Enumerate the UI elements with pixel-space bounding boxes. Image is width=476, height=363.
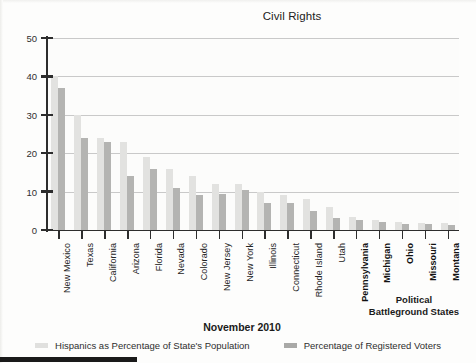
x-tick — [264, 231, 265, 239]
x-axis-label: Missouri — [428, 243, 438, 281]
bar-population[interactable] — [349, 217, 356, 230]
x-tick — [150, 231, 151, 239]
scan-artifact-bar — [0, 357, 137, 362]
y-tick-0 — [41, 229, 53, 232]
y-tick-label-0: 0 — [32, 225, 37, 236]
bar-voters[interactable] — [173, 188, 180, 230]
bar-voters[interactable] — [333, 218, 340, 230]
bar-group[interactable] — [367, 38, 390, 230]
x-tick — [173, 231, 174, 239]
bar-group[interactable] — [390, 38, 413, 230]
x-axis-label: New York — [245, 243, 255, 282]
bar-group[interactable] — [47, 38, 70, 230]
bar-population[interactable] — [189, 176, 196, 230]
x-axis-label: Utah — [337, 243, 347, 262]
bar-group[interactable] — [70, 38, 93, 230]
plot-area: 01020304050 — [47, 38, 459, 230]
bar-voters[interactable] — [356, 220, 363, 230]
bar-group[interactable] — [413, 38, 436, 230]
bar-voters[interactable] — [310, 211, 317, 230]
x-tick — [242, 231, 243, 239]
bar-voters[interactable] — [196, 195, 203, 230]
y-tick-20 — [41, 152, 53, 155]
y-tick-label-40: 40 — [26, 71, 37, 82]
x-axis-label: Colorado — [199, 243, 209, 280]
x-axis-label: Pennsylvania — [360, 243, 370, 302]
x-axis-line — [46, 230, 459, 231]
x-axis-label: Arizona — [131, 243, 141, 274]
bar-voters[interactable] — [150, 169, 157, 230]
x-axis-label: Nevada — [176, 243, 186, 275]
bar-population[interactable] — [280, 195, 287, 230]
bar-population[interactable] — [143, 157, 150, 230]
y-tick-50 — [41, 37, 53, 40]
y-axis-line — [46, 36, 48, 232]
x-tick — [196, 231, 197, 239]
bar-population[interactable] — [257, 192, 264, 230]
bar-population[interactable] — [120, 142, 127, 230]
bar-group[interactable] — [161, 38, 184, 230]
legend-swatch-population-icon — [35, 343, 48, 348]
bar-voters[interactable] — [58, 88, 65, 230]
x-tick — [127, 231, 128, 239]
bar-population[interactable] — [235, 184, 242, 230]
chart-title: Civil Rights — [0, 10, 476, 22]
x-tick — [448, 231, 449, 239]
bar-group[interactable] — [207, 38, 230, 230]
bar-voters[interactable] — [242, 190, 249, 230]
bar-population[interactable] — [303, 199, 310, 230]
bar-group[interactable] — [299, 38, 322, 230]
y-tick-10 — [41, 190, 53, 193]
x-tick — [58, 231, 59, 239]
scan-edge-top — [0, 0, 476, 3]
bar-group[interactable] — [276, 38, 299, 230]
bar-group[interactable] — [436, 38, 459, 230]
battleground-annotation: Political Battleground States — [355, 294, 473, 317]
bar-population[interactable] — [166, 169, 173, 230]
bar-group[interactable] — [230, 38, 253, 230]
bar-voters[interactable] — [127, 176, 134, 230]
legend-label-population: Hispanics as Percentage of State's Popul… — [55, 340, 250, 351]
y-tick-40 — [41, 75, 53, 78]
bar-population[interactable] — [74, 115, 81, 230]
x-tick — [356, 231, 357, 239]
x-axis-label: Texas — [85, 243, 95, 267]
bar-group[interactable] — [184, 38, 207, 230]
bar-voters[interactable] — [81, 138, 88, 230]
x-axis-label: Ohio — [405, 243, 415, 264]
x-tick — [402, 231, 403, 239]
bar-voters[interactable] — [287, 203, 294, 230]
bar-series-container — [47, 38, 459, 230]
x-axis-label: Rhode Island — [314, 243, 324, 297]
x-tick — [104, 231, 105, 239]
bar-population[interactable] — [97, 138, 104, 230]
bar-group[interactable] — [345, 38, 368, 230]
bar-group[interactable] — [93, 38, 116, 230]
y-tick-label-30: 30 — [26, 109, 37, 120]
bar-group[interactable] — [116, 38, 139, 230]
y-tick-label-10: 10 — [26, 186, 37, 197]
bar-group[interactable] — [322, 38, 345, 230]
legend-label-voters: Percentage of Registered Voters — [304, 340, 441, 351]
x-tick — [333, 231, 334, 239]
bar-voters[interactable] — [264, 203, 271, 230]
bar-population[interactable] — [212, 184, 219, 230]
legend-item-population: Hispanics as Percentage of State's Popul… — [35, 340, 250, 351]
footer-date: November 2010 — [0, 321, 476, 333]
chart-page: Civil Rights 01020304050 New MexicoTexas… — [0, 0, 476, 363]
y-tick-label-20: 20 — [26, 148, 37, 159]
bar-population[interactable] — [372, 220, 379, 230]
bar-group[interactable] — [139, 38, 162, 230]
x-axis-label: New Jersey — [222, 243, 232, 291]
x-axis-label: New Mexico — [62, 243, 72, 293]
bar-group[interactable] — [253, 38, 276, 230]
bar-voters[interactable] — [219, 194, 226, 230]
x-tick — [81, 231, 82, 239]
x-axis-label: California — [108, 243, 118, 282]
x-axis-label: Illinois — [268, 243, 278, 269]
x-axis-label: Connecticut — [291, 243, 301, 292]
x-axis-label: Michigan — [382, 243, 392, 283]
bar-voters[interactable] — [104, 142, 111, 230]
scan-edge-left — [0, 0, 3, 363]
bar-population[interactable] — [326, 207, 333, 230]
